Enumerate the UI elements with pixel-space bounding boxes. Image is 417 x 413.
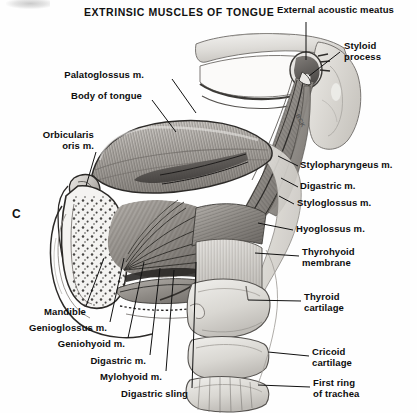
label-external-acoustic-meatus: External acoustic meatus	[277, 5, 417, 16]
label-digastric-sling: Digastric sling	[2, 389, 188, 400]
illustration-page: EXTRINSIC MUSCLES OF TONGUE C	[0, 0, 417, 413]
label-mylohyoid: Mylohyoid m.	[2, 372, 162, 383]
label-thyroid-cartilage: Thyroid cartilage	[304, 292, 404, 313]
label-styloid-process: Styloid process	[344, 41, 416, 62]
label-stylopharyngeus: Stylopharyngeus m.	[300, 160, 417, 171]
label-first-tracheal-ring: First ring of trachea	[313, 378, 411, 399]
label-hyoglossus: Hyoglossus m.	[296, 224, 410, 235]
label-mandible: Mandible	[2, 307, 86, 318]
label-orbicularis-oris: Orbicularis oris m.	[2, 130, 94, 151]
label-styloglossus: Styloglossus m.	[297, 198, 413, 209]
label-thyrohyoid-membrane: Thyrohyoid membrane	[302, 247, 406, 268]
label-cricoid-cartilage: Cricoid cartilage	[312, 347, 410, 368]
label-digastric-floor: Digastric m.	[2, 356, 146, 367]
label-geniohyoid: Geniohyoid m.	[2, 339, 125, 350]
label-digastric-post: Digastric m.	[300, 181, 410, 192]
label-palatoglossus: Palatoglossus m.	[2, 70, 144, 81]
label-body-of-tongue: Body of tongue	[2, 91, 142, 102]
label-genioglossus: Genioglossus m.	[2, 323, 107, 334]
